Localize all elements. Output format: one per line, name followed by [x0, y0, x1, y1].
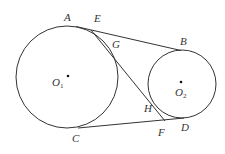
geometry-diagram: A E G B H F D C O1 O2	[0, 0, 225, 154]
center-dot-o1	[67, 75, 70, 78]
label-e: E	[93, 12, 101, 24]
label-o1: O1	[52, 76, 64, 90]
label-d: D	[180, 121, 189, 133]
label-a: A	[63, 11, 71, 23]
label-o2: O2	[175, 86, 187, 100]
tangent-line-ef	[91, 30, 165, 121]
label-c: C	[72, 132, 80, 144]
center-dot-o2	[180, 81, 183, 84]
label-b: B	[180, 35, 187, 47]
label-g: G	[112, 38, 120, 50]
label-f: F	[157, 126, 165, 138]
circle-o2	[148, 50, 216, 118]
label-h: H	[143, 102, 153, 114]
tangent-line-cd	[78, 118, 184, 128]
circle-o1	[16, 26, 118, 128]
tangent-line-ab	[76, 27, 181, 51]
diagram-canvas: A E G B H F D C O1 O2	[0, 0, 225, 154]
